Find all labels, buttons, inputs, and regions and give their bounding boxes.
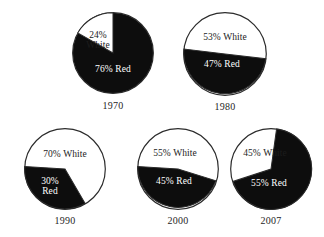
pie-year-2007: 2007 [229,215,313,226]
pie-year-1970: 1970 [71,100,155,111]
pie-chart-1990: 70% White 30% Red 1990 [23,127,107,231]
pie-year-1990: 1990 [23,215,107,226]
pie-year-2000: 2000 [136,215,220,226]
pie-chart-1970: 24% White 76% Red 1970 [71,11,155,117]
pie-year-1980: 1980 [182,101,268,112]
pie-svg-1980 [182,11,268,97]
pie-chart-2000: 55% White 45% Red 2000 [136,127,220,231]
pie-svg-2000 [136,127,220,211]
pie-svg-2007 [229,127,313,211]
pie-chart-1980: 53% White 47% Red 1980 [182,11,268,117]
pie-chart-figure: 24% White 76% Red 1970 53% White 47% Red… [0,0,324,237]
pie-chart-2007: 45% White 55% Red 2007 [229,127,313,231]
pie-svg-1990 [23,127,107,211]
pie-svg-1970 [71,11,155,95]
